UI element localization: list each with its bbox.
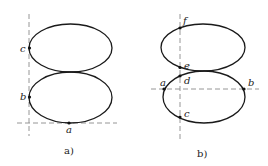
label-b: b: [20, 91, 26, 102]
upper-ellipse: [161, 24, 245, 71]
figure-b: f e d a b c b): [151, 14, 259, 159]
lower-ellipse: [29, 72, 112, 123]
point-b: [28, 95, 31, 98]
figure-a: c b a a): [17, 14, 117, 156]
label-b: b: [248, 77, 254, 88]
label-e: e: [184, 60, 190, 71]
label-c: c: [184, 108, 190, 119]
point-c: [28, 46, 31, 49]
point-f: [178, 26, 181, 29]
figure-canvas: c b a a) f e d a b c b): [0, 0, 268, 166]
upper-ellipse: [29, 24, 112, 72]
label-a: a: [160, 77, 166, 88]
label-f: f: [182, 15, 189, 26]
point-c: [178, 115, 181, 118]
caption-a: a): [64, 145, 74, 156]
label-d: d: [184, 75, 190, 86]
point-b: [242, 87, 245, 90]
caption-b: b): [197, 148, 207, 159]
label-a: a: [66, 124, 72, 135]
lower-ellipse: [163, 71, 245, 123]
point-d: [178, 74, 181, 77]
label-c: c: [20, 43, 26, 54]
point-e: [178, 66, 181, 69]
